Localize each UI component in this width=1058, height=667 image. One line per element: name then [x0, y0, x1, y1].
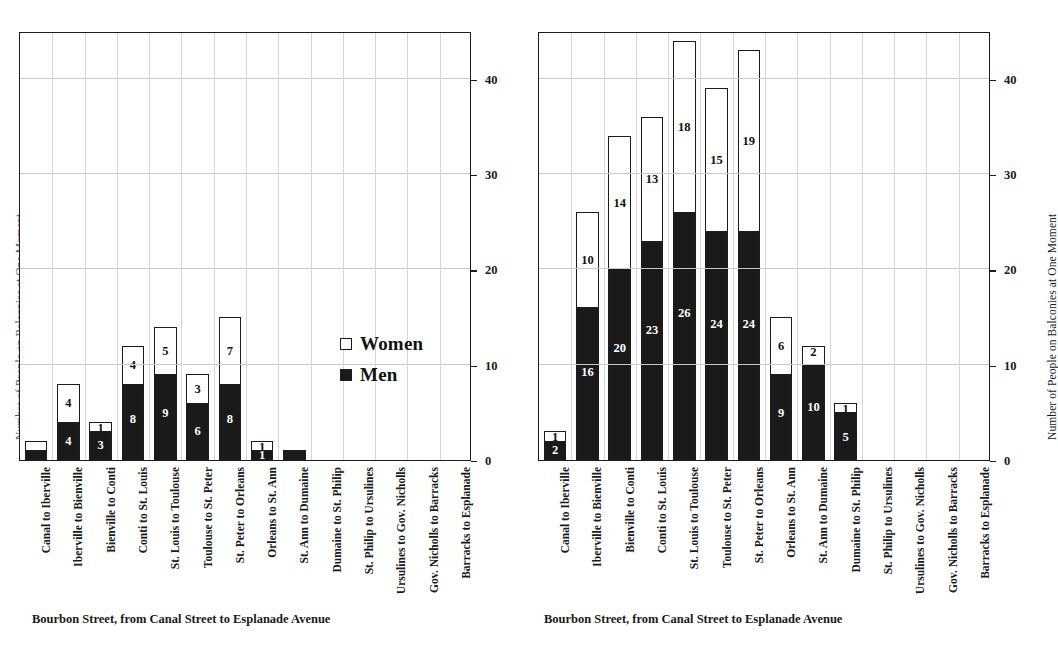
bar-value-label-men: 1: [259, 449, 265, 462]
bar-column[interactable]: 44: [57, 384, 80, 460]
bar-column[interactable]: 1924: [738, 50, 761, 460]
bar-segment-women[interactable]: 4: [57, 384, 80, 422]
bar-column[interactable]: 15: [834, 403, 857, 460]
bars-group-left: 44134859367811: [20, 33, 470, 460]
x-axis-title-left: Bourbon Street, from Canal Street to Esp…: [32, 612, 330, 627]
chart-panel-left: Number of People on Balconies at One Mom…: [0, 0, 527, 667]
bar-column[interactable]: 1826: [673, 41, 696, 460]
bar-column[interactable]: 59: [154, 327, 177, 460]
chart-panel-right: Number of People on Balconies at One Mom…: [527, 0, 1054, 667]
gridline-vertical: [765, 33, 766, 460]
bar-segment-men[interactable]: 4: [57, 422, 80, 460]
bar-segment-women[interactable]: 18: [673, 41, 696, 213]
y-axis-tick-label: 20: [485, 263, 498, 278]
bar-segment-men[interactable]: [25, 450, 48, 460]
x-axis-tick-label: Gov. Nicholls to Barracks: [947, 467, 959, 593]
bar-segment-men[interactable]: 20: [608, 269, 631, 460]
x-axis-tick-label: St. Peter to Orleans: [753, 467, 765, 563]
bar-segment-women[interactable]: 15: [705, 88, 728, 231]
bar-column[interactable]: 78: [219, 317, 242, 460]
bar-column[interactable]: 11: [251, 441, 274, 460]
bar-value-label-men: 2: [552, 444, 558, 457]
y-axis-tick-mark: [471, 175, 477, 176]
x-axis-tick-label: Gov. Nicholls to Barracks: [428, 467, 440, 593]
gridline-vertical: [117, 33, 118, 460]
bar-segment-women[interactable]: 7: [219, 317, 242, 384]
bar-value-label-women: 3: [194, 383, 200, 396]
y-axis-tick-label: 40: [1004, 72, 1017, 87]
bar-segment-men[interactable]: [283, 450, 306, 460]
bar-segment-men[interactable]: 16: [576, 307, 599, 460]
y-axis-tick-label: 10: [485, 358, 498, 373]
bar-segment-men[interactable]: 2: [544, 441, 567, 460]
gridline-vertical: [668, 33, 669, 460]
bar-segment-men[interactable]: 24: [705, 231, 728, 460]
bar-segment-men[interactable]: 8: [122, 384, 145, 460]
bar-segment-women[interactable]: 1: [544, 431, 567, 441]
bar-column[interactable]: 12: [544, 431, 567, 460]
gridline-vertical: [311, 33, 312, 460]
bar-segment-women[interactable]: 1: [89, 422, 112, 432]
y-axis-tick-label: 0: [485, 454, 491, 469]
bar-value-label-women: 2: [810, 346, 816, 359]
y-axis-tick-label: 30: [1004, 168, 1017, 183]
gridline-vertical: [959, 33, 960, 460]
x-axis-tick-label: Canal to Iberville: [40, 467, 52, 553]
y-axis-tick-mark: [471, 80, 477, 81]
bar-segment-men[interactable]: 3: [89, 431, 112, 460]
x-axis-tick-label: Barracks to Esplanade: [979, 467, 991, 579]
bar-segment-men[interactable]: 26: [673, 212, 696, 460]
y-axis-tick-mark: [990, 270, 996, 271]
bar-column[interactable]: 1420: [608, 136, 631, 460]
bar-column[interactable]: 1016: [576, 212, 599, 460]
bar-value-label-women: 4: [65, 397, 71, 410]
bar-segment-women[interactable]: 2: [802, 346, 825, 365]
bar-segment-men[interactable]: 9: [770, 374, 793, 460]
bars-group-right: 121016142013231826152419246921015: [539, 33, 989, 460]
bar-value-label-women: 7: [227, 345, 233, 358]
bar-column[interactable]: [283, 450, 306, 460]
gridline-vertical: [278, 33, 279, 460]
x-axis-tick-label: Orleans to St. Ann: [266, 467, 278, 558]
bar-value-label-women: 5: [162, 345, 168, 358]
bar-segment-men[interactable]: 5: [834, 412, 857, 460]
bar-segment-men[interactable]: 10: [802, 365, 825, 460]
bar-segment-men[interactable]: 8: [219, 384, 242, 460]
bar-column[interactable]: 13: [89, 422, 112, 460]
bar-column[interactable]: [25, 441, 48, 460]
x-axis-tick-label: St. Philip to Ursulines: [363, 467, 375, 574]
bar-value-label-men: 24: [710, 318, 723, 331]
bar-column[interactable]: 36: [186, 374, 209, 460]
bar-segment-men[interactable]: 23: [641, 241, 664, 460]
x-axis-tick-label: Barracks to Esplanade: [460, 467, 472, 579]
gridline-vertical: [52, 33, 53, 460]
bar-column[interactable]: 69: [770, 317, 793, 460]
gridline-vertical: [375, 33, 376, 460]
bar-segment-men[interactable]: 9: [154, 374, 177, 460]
bar-segment-women[interactable]: 5: [154, 327, 177, 375]
bar-segment-women[interactable]: 3: [186, 374, 209, 403]
bar-column[interactable]: 1323: [641, 117, 664, 460]
legend-item-men: Men: [340, 364, 423, 386]
y-axis-tick-label: 40: [485, 72, 498, 87]
bar-segment-men[interactable]: 6: [186, 403, 209, 460]
bar-segment-men[interactable]: 24: [738, 231, 761, 460]
x-axis-tick-label: Canal to Iberville: [559, 467, 571, 553]
bar-segment-women[interactable]: 14: [608, 136, 631, 269]
bar-segment-men[interactable]: 1: [251, 450, 274, 460]
bar-column[interactable]: 1524: [705, 88, 728, 460]
bar-value-label-men: 16: [581, 366, 594, 379]
bar-segment-women[interactable]: 6: [770, 317, 793, 374]
bar-segment-women[interactable]: 1: [834, 403, 857, 413]
gridline-vertical: [636, 33, 637, 460]
gridline-vertical: [571, 33, 572, 460]
bar-value-label-women: 15: [710, 154, 723, 167]
y-axis-tick-label: 20: [1004, 263, 1017, 278]
bar-segment-women[interactable]: [25, 441, 48, 451]
gridline-vertical: [604, 33, 605, 460]
plot-area-right: 121016142013231826152419246921015: [538, 32, 990, 461]
bar-segment-women[interactable]: 13: [641, 117, 664, 241]
bar-segment-women[interactable]: 4: [122, 346, 145, 384]
bar-segment-women[interactable]: 10: [576, 212, 599, 307]
bar-value-label-men: 24: [743, 318, 756, 331]
